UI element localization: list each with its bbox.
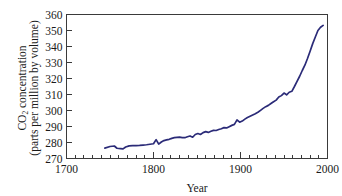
y-tick-label: 290: [45, 121, 63, 133]
y-axis-tick-labels: 270280290300310320330340350360: [45, 9, 63, 165]
y-axis-title-rest: concentration: [16, 45, 28, 111]
y-tick-label: 300: [45, 105, 63, 117]
y-axis-title-line2: (parts per million by volume): [28, 20, 41, 156]
x-axis-tick-labels: 1700180019002000: [55, 163, 339, 175]
y-tick-label: 340: [45, 41, 63, 53]
y-tick-label: 360: [45, 9, 63, 21]
x-tick-label: 1900: [229, 163, 252, 175]
plot-frame: [67, 15, 328, 159]
x-axis-title: Year: [186, 182, 207, 194]
y-tick-label: 280: [45, 137, 63, 149]
data-series-group: [105, 25, 323, 149]
data-series-line: [105, 25, 323, 149]
y-axis-ticks: [67, 15, 72, 159]
x-tick-label: 2000: [316, 163, 339, 175]
x-tick-label: 1700: [55, 163, 78, 175]
y-axis-title: CO2 concentration (parts per million by …: [16, 20, 41, 156]
x-tick-label: 1800: [142, 163, 165, 175]
y-tick-label: 350: [45, 25, 63, 37]
y-axis-title-co-text: CO: [16, 115, 28, 131]
y-tick-label: 310: [45, 89, 63, 101]
co2-concentration-chart-figure: 270280290300310320330340350360 170018001…: [0, 0, 342, 196]
chart-svg: 270280290300310320330340350360 170018001…: [0, 0, 342, 196]
y-tick-label: 330: [45, 57, 63, 69]
x-axis-ticks: [67, 152, 328, 159]
y-tick-label: 320: [45, 73, 63, 85]
